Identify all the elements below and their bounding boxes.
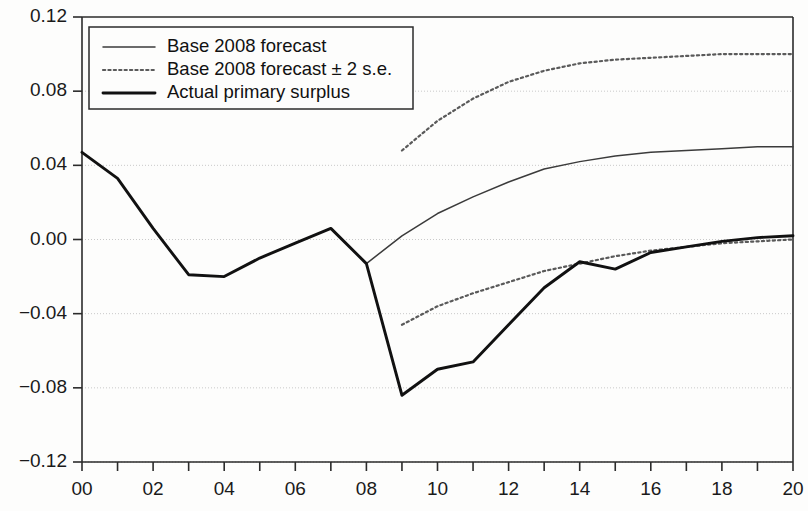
- x-tick-label: 16: [640, 478, 661, 499]
- x-tick-label: 08: [356, 478, 377, 499]
- x-tick-label: 04: [214, 478, 236, 499]
- x-tick-label: 14: [569, 478, 591, 499]
- x-tick-label: 18: [711, 478, 732, 499]
- y-tick-label: −0.12: [19, 450, 67, 471]
- chart-legend: Base 2008 forecastBase 2008 forecast ± 2…: [89, 27, 413, 109]
- chart-container: 0.120.080.040.00−0.04−0.08−0.12 00020406…: [0, 0, 808, 511]
- x-tick-label: 10: [427, 478, 448, 499]
- y-tick-label: −0.08: [19, 376, 67, 397]
- x-tick-label: 12: [498, 478, 519, 499]
- x-axis-ticks: [82, 462, 793, 471]
- x-tick-label: 06: [285, 478, 306, 499]
- x-tick-label: 02: [143, 478, 164, 499]
- primary-surplus-forecast-chart: 0.120.080.040.00−0.04−0.08−0.12 00020406…: [0, 0, 808, 511]
- x-tick-label: 20: [782, 478, 803, 499]
- y-tick-label: 0.04: [30, 153, 67, 174]
- legend-label: Base 2008 forecast: [167, 35, 326, 56]
- x-tick-label: 00: [71, 478, 92, 499]
- y-tick-label: 0.12: [30, 5, 67, 26]
- y-tick-label: 0.08: [30, 79, 67, 100]
- y-tick-label: −0.04: [19, 302, 68, 323]
- legend-label: Base 2008 forecast ± 2 s.e.: [167, 58, 392, 79]
- legend-label: Actual primary surplus: [167, 81, 350, 102]
- y-tick-label: 0.00: [30, 228, 67, 249]
